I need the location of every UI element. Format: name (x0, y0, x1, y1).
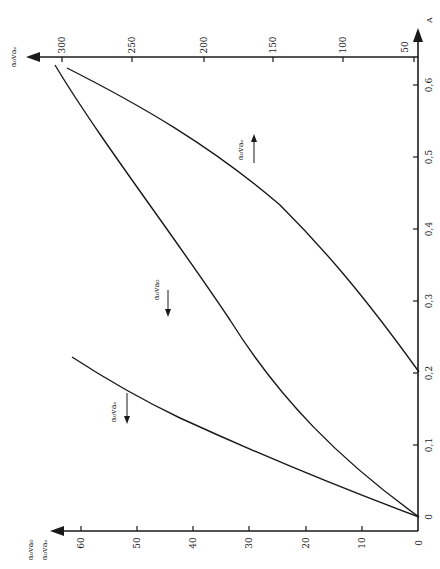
a-tick-label: 0,5 (424, 150, 434, 165)
arrow-down-icon (124, 416, 130, 424)
right-tick-label: 150 (268, 36, 278, 53)
a-tick-label: 0 (424, 514, 434, 520)
right-tick-label: 250 (127, 36, 137, 53)
left-axis-tick-labels: 0 10 20 30 40 50 60 (76, 537, 424, 549)
right-tick-label: 300 (57, 36, 67, 53)
left-tick-label: 60 (76, 537, 86, 549)
curve-label-text: α₀vaₑ (109, 402, 118, 423)
left-tick-label: 10 (357, 537, 367, 549)
right-tick-label: 100 (338, 36, 348, 53)
left-tick-label: 0 (414, 540, 424, 546)
right-axis-label: α₀vaₑ (9, 47, 18, 68)
left-tick-label: 30 (244, 537, 254, 549)
a-axis-label: A (425, 17, 434, 24)
rotated-line-chart: A 0 0,1 0,2 0,3 0,4 0,5 0,6 (0, 0, 440, 569)
right-tick-label: 200 (199, 36, 209, 53)
a-tick-label: 0,4 (424, 222, 434, 237)
a-axis-arrow-icon (413, 28, 423, 42)
right-tick-label: 50 (400, 41, 410, 53)
right-axis-arrow-icon (26, 52, 40, 62)
curve-alpha-vao-left (55, 65, 419, 517)
curve-label-3: α₀vaₑ (236, 134, 257, 163)
left-tick-label: 20 (301, 537, 311, 549)
a-axis: A 0 0,1 0,2 0,3 0,4 0,5 0,6 (413, 17, 434, 531)
right-axis-tick-labels: 50 100 150 200 250 300 (57, 36, 410, 53)
curve-alpha-vae-left (72, 357, 419, 517)
curve-label-text: α₀va₀ (152, 279, 161, 300)
left-axis-label-line1: α₀va₀ (26, 539, 35, 560)
a-tick-label: 0,3 (424, 294, 434, 309)
curve-label-2: α₀va₀ (152, 279, 171, 317)
a-axis-tick-labels: 0 0,1 0,2 0,3 0,4 0,5 0,6 (424, 78, 434, 520)
left-axis-arrow-icon (50, 526, 64, 536)
a-tick-label: 0,2 (424, 366, 434, 380)
curves (55, 65, 419, 517)
curve-label-1: α₀vaₑ (109, 393, 130, 424)
a-tick-label: 0,1 (424, 438, 434, 452)
left-axis-label-line2: α₀vaₑ (40, 540, 49, 561)
left-value-axis: 0 10 20 30 40 50 60 α₀va₀ α₀vaₑ (26, 526, 424, 561)
arrow-up-icon (251, 134, 257, 142)
curve-alpha-vae-right (67, 68, 419, 372)
curve-label-text: α₀vaₑ (236, 140, 245, 161)
arrow-down-icon (165, 309, 171, 317)
left-tick-label: 50 (132, 537, 142, 549)
left-tick-label: 40 (188, 537, 198, 549)
right-value-axis: 50 100 150 200 250 300 α₀vaₑ (9, 36, 418, 67)
a-tick-label: 0,6 (424, 78, 434, 93)
